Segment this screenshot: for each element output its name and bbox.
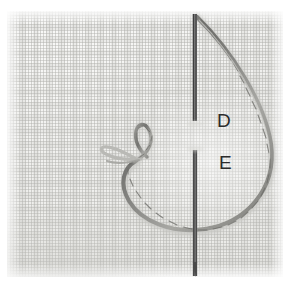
embroidery-photo: D E	[0, 0, 293, 288]
stitch-illustration	[0, 0, 293, 288]
fabric-pucker	[186, 121, 204, 152]
sewing-needle	[193, 14, 198, 277]
stitch-label-e: E	[219, 153, 232, 172]
stitch-label-d: D	[217, 111, 231, 130]
needle-shaft-upper	[193, 14, 197, 121]
needle-shaft-lower	[193, 150, 197, 276]
thread-tail-end	[101, 147, 141, 159]
thread-tail-loop	[101, 124, 152, 162]
